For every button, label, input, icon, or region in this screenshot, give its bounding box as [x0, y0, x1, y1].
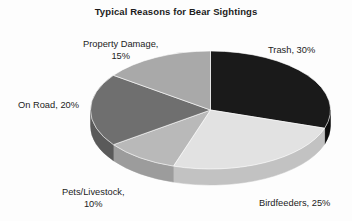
slice-label-pets-livestock: Pets/Livestock, 10%: [62, 187, 125, 210]
slice-label-trash: Trash, 30%: [268, 45, 315, 57]
slice-label-property-damage: Property Damage, 15%: [83, 39, 158, 62]
slice-label-on-road: On Road, 20%: [18, 100, 79, 112]
slice-label-pets-livestock-line1: Pets/Livestock,: [62, 187, 125, 199]
slice-label-pets-livestock-line2: 10%: [62, 199, 125, 211]
slice-label-property-damage-line1: Property Damage,: [83, 39, 158, 51]
slice-label-birdfeeders: Birdfeeders, 25%: [259, 198, 330, 210]
pie-chart-figure: Typical Reasons for Bear Sightings Trash…: [0, 0, 352, 221]
pie-top-faces: [91, 51, 331, 169]
slice-label-property-damage-line2: 15%: [83, 51, 158, 63]
